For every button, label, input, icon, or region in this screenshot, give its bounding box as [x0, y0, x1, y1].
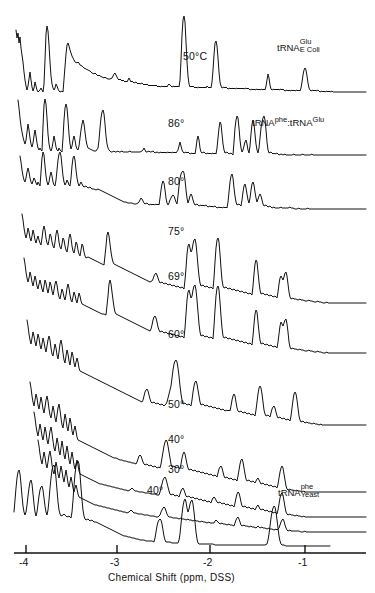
spectra-plot [0, 0, 375, 593]
x-tick-label-2: -2 [203, 556, 212, 568]
sample-label-mixture: tRNAphe:tRNAGlu [252, 116, 324, 128]
temp-label-3: 75° [168, 225, 184, 237]
temp-label-5: 60° [168, 328, 184, 340]
trace-80 [20, 152, 366, 209]
temp-label-1: 86° [168, 117, 184, 129]
trace-69 [24, 258, 366, 353]
trace-60 [27, 320, 366, 425]
sample-label-mixture-base-b: tRNA [290, 117, 313, 128]
x-axis-ticks [26, 545, 305, 553]
temp-label-6: 50° [168, 398, 184, 410]
sample-label-stack: GluE Coli [300, 38, 320, 54]
sample-label-mixture-sup-b: Glu [313, 115, 325, 124]
x-axis-title: Chemical Shift (ppm, DSS) [108, 572, 235, 583]
temp-label-2: 80° [168, 175, 184, 187]
sample-label-base: tRNA [277, 42, 300, 53]
sample-label-yeast-stack: pheYeast [301, 483, 320, 499]
sample-label-mixture-sup-a: phe [275, 115, 288, 124]
x-tick-label-3: -1 [298, 556, 307, 568]
temp-label-9: 40° [147, 484, 163, 496]
sample-label-subscript: E Coli [300, 46, 320, 54]
x-tick-label-1: -3 [110, 556, 119, 568]
x-tick-label-0: -4 [19, 556, 28, 568]
sample-label-yeast-base: tRNA [278, 487, 301, 498]
temp-label-4: 69° [168, 270, 184, 282]
sample-label-ecoli: tRNAGluE Coli [277, 38, 320, 54]
temp-label-7: 40° [168, 433, 184, 445]
temp-label-0: 50°C [183, 50, 207, 62]
trace-75 [22, 214, 366, 303]
sample-label-yeast: tRNApheYeast [278, 483, 319, 499]
temp-label-8: 30° [168, 463, 184, 475]
trace-40 [34, 412, 366, 517]
sample-label-yeast-subscript: Yeast [301, 491, 320, 499]
sample-label-mixture-base-a: tRNA [252, 117, 275, 128]
nmr-figure: 50°C 86° 80° 75° 69° 60° 50° 40° 30° 40°… [0, 0, 375, 593]
